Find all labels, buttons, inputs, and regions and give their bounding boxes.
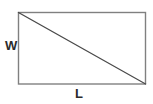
diagonal-line	[19, 13, 146, 85]
length-label: L	[75, 87, 83, 100]
figure-canvas: W L	[0, 0, 153, 104]
width-label: W	[5, 39, 17, 52]
